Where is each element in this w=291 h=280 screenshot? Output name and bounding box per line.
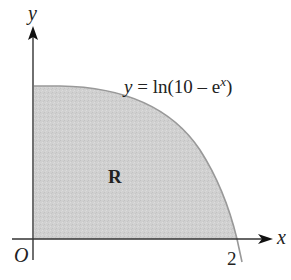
origin-label: O (14, 244, 28, 267)
region-label: R (108, 166, 122, 188)
curve-equation: y = ln(10 – ex) (124, 74, 232, 98)
region-r (34, 86, 237, 239)
equation-close: ) (226, 76, 232, 97)
x-tick-label-2: 2 (227, 248, 237, 270)
equation-body: = ln(10 – e (132, 76, 220, 97)
y-axis-label: y (28, 2, 37, 25)
diagram-canvas (0, 0, 291, 280)
x-axis-label: x (277, 226, 286, 249)
